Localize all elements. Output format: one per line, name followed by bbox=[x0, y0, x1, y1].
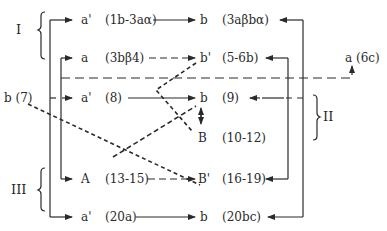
row3-right-ref: (9) bbox=[222, 91, 239, 105]
row5-right-node: B' bbox=[198, 172, 210, 186]
diagram: I II III a' (1b-3aα) b (3aβbα) a (3bβ4) … bbox=[0, 0, 387, 231]
row2-left-ref: (3bβ4) bbox=[105, 51, 144, 65]
row4-right-node: B bbox=[198, 131, 207, 145]
row2-left-node: a bbox=[81, 51, 88, 65]
brace-I bbox=[38, 12, 45, 59]
group-label-I: I bbox=[16, 23, 21, 37]
row5-left-node: A bbox=[81, 172, 90, 186]
row2-right-ref: (5-6b) bbox=[222, 51, 258, 65]
row1-left-node: a' bbox=[81, 13, 91, 27]
row1-right-node: b bbox=[200, 13, 208, 27]
row5-right-ref: (16-19) bbox=[222, 172, 266, 186]
row3-left-ref: (8) bbox=[105, 91, 122, 105]
outlier-b-7: b (7) bbox=[4, 91, 33, 105]
group-label-III: III bbox=[11, 183, 26, 197]
row6-left-node: a' bbox=[81, 210, 91, 224]
group-label-II: II bbox=[323, 110, 333, 124]
row6-right-node: b bbox=[200, 210, 208, 224]
row1-left-ref: (1b-3aα) bbox=[105, 13, 157, 27]
row1-right-ref: (3aβbα) bbox=[222, 13, 269, 27]
brace-II bbox=[313, 95, 320, 140]
row6-left-ref: (20a) bbox=[105, 210, 137, 224]
outlier-a-6c: a (6c) bbox=[345, 51, 380, 65]
row4-right-ref: (10-12) bbox=[222, 131, 266, 145]
row3-left-node: a' bbox=[81, 91, 91, 105]
row3-right-node: b bbox=[200, 91, 208, 105]
row6-right-ref: (20bc) bbox=[222, 210, 261, 224]
brace-III bbox=[38, 168, 45, 211]
row2-right-node: b' bbox=[200, 51, 211, 65]
row5-left-ref: (13-15) bbox=[105, 172, 149, 186]
